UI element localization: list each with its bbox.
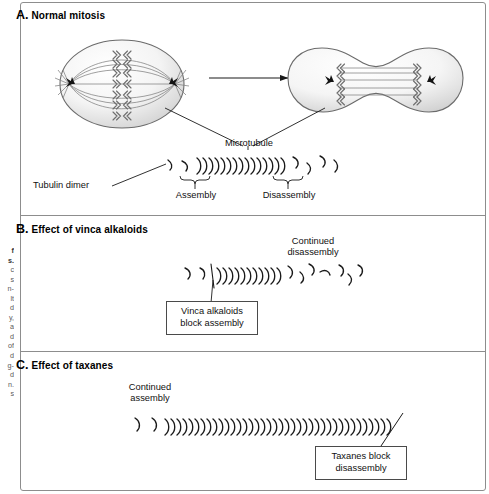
panel-title-text-b: Effect of vinca alkaloids [31,224,147,235]
label-disassembly: Disassembly [253,190,325,201]
label-tubulin-dimer: Tubulin dimer [33,180,89,191]
caption-fragment: d [0,303,14,313]
caption-fragment: s [0,275,14,285]
caption-fragment: s [0,389,14,399]
caption-fragment: g- [0,361,14,371]
panel-letter-c: C. [16,358,29,372]
caption-fragment: d [0,332,14,342]
panel-title-text-c: Effect of taxanes [31,360,113,371]
figure-frame [20,2,486,491]
caption-fragment: lt [0,294,14,304]
callout-taxanes-line1: Taxanes block [323,451,399,463]
label-microtubule: Microtubule [213,138,285,149]
panel-divider-a-b [21,215,485,216]
panel-title-text-a: Normal mitosis [31,10,105,21]
panel-title-a: A. Normal mitosis [16,8,105,22]
caption-column-fragments: f s. c s n- lt d y, a d of d g- d n. s [0,246,14,476]
callout-vinca-line1: Vinca alkaloids [174,306,250,318]
panel-letter-a: A. [16,8,29,22]
caption-fragment: c [0,265,14,275]
caption-fragment: y, [0,313,14,323]
caption-fragment: n. [0,380,14,390]
caption-fragment: d [0,370,14,380]
caption-fragment: a [0,322,14,332]
label-continued-disassembly-line1: Continued [278,236,348,247]
label-continued-assembly-line1: Continued [115,382,185,393]
callout-taxanes-line2: disassembly [323,463,399,475]
caption-fragment: of [0,341,14,351]
caption-fragment: n- [0,284,14,294]
panel-letter-b: B. [16,222,29,236]
panel-title-b: B. Effect of vinca alkaloids [16,222,148,236]
callout-vinca-line2: block assembly [174,318,250,330]
callout-vinca-alkaloids: Vinca alkaloids block assembly [166,301,258,335]
panel-divider-b-c [21,351,485,352]
label-continued-assembly-line2: assembly [115,393,185,404]
label-continued-disassembly-line2: disassembly [273,247,353,258]
figure-root: f s. c s n- lt d y, a d of d g- d n. s [0,0,489,494]
panel-title-c: C. Effect of taxanes [16,358,113,372]
caption-fragment: f [0,246,14,256]
caption-fragment: s. [0,256,14,266]
label-assembly: Assembly [168,190,224,201]
caption-fragment: d [0,351,14,361]
callout-taxanes: Taxanes block disassembly [315,446,407,480]
